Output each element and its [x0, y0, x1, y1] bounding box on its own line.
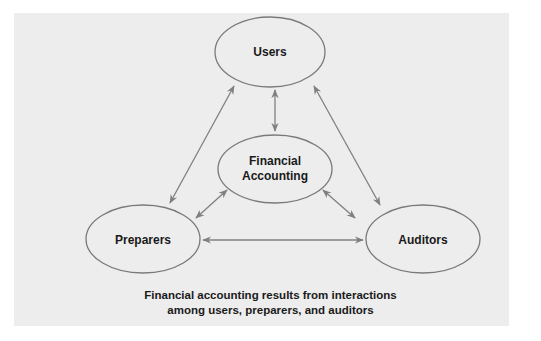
caption-line2: among users, preparers, and auditors	[0, 303, 541, 318]
financial-accounting-label: Financial Accounting	[218, 154, 332, 184]
arrow-financial-preparers	[196, 190, 227, 218]
caption-line1: Financial accounting results from intera…	[0, 288, 541, 303]
preparers-label: Preparers	[86, 233, 200, 248]
financial-accounting-label-line2: Accounting	[218, 169, 332, 184]
financial-accounting-label-line1: Financial	[218, 154, 332, 169]
auditors-label: Auditors	[366, 233, 480, 248]
users-label: Users	[215, 45, 325, 60]
arrow-financial-auditors	[323, 190, 355, 218]
